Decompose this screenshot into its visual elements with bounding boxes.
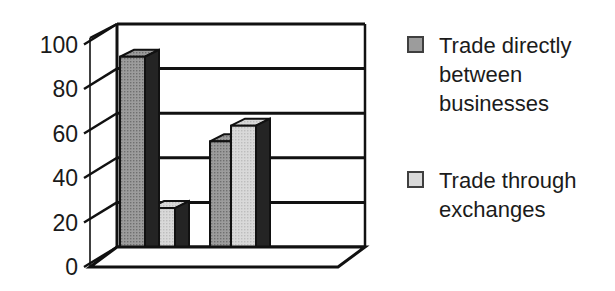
bar-chart-plot-area: 020406080100: [0, 0, 400, 291]
legend-label-exchanges: Trade through exchanges: [439, 166, 604, 224]
bar-side-series1-group1: [145, 50, 159, 247]
legend-item-exchanges: Trade through exchanges: [407, 166, 604, 224]
y-axis-tick-label: 20: [52, 210, 78, 236]
floor: [90, 247, 365, 267]
axis-top-slant: [90, 24, 117, 38]
legend-swatch-exchanges-icon: [407, 171, 424, 188]
tick-line: [84, 69, 117, 89]
bar-series2-group2: [231, 126, 256, 247]
y-axis-tick-label: 60: [52, 121, 78, 147]
figure-3d-bar-chart: 020406080100 Trade directly between busi…: [0, 0, 615, 291]
legend: Trade directly between businesses Trade …: [407, 31, 604, 224]
y-axis-tick-label: 80: [52, 76, 78, 102]
legend-item-direct: Trade directly between businesses: [407, 31, 604, 118]
y-axis-tick-label: 0: [65, 254, 78, 280]
tick-line: [84, 202, 117, 222]
y-axis-tick-label: 40: [52, 165, 78, 191]
legend-swatch-direct-icon: [407, 36, 424, 53]
tick-line: [84, 158, 117, 178]
bar-series1-group1: [120, 57, 145, 247]
y-axis-tick-label: 100: [40, 32, 78, 58]
tick-line: [84, 113, 117, 133]
bar-side-series2-group1: [175, 201, 189, 247]
bar-side-series2-group2: [256, 119, 270, 247]
legend-label-direct: Trade directly between businesses: [439, 31, 604, 118]
